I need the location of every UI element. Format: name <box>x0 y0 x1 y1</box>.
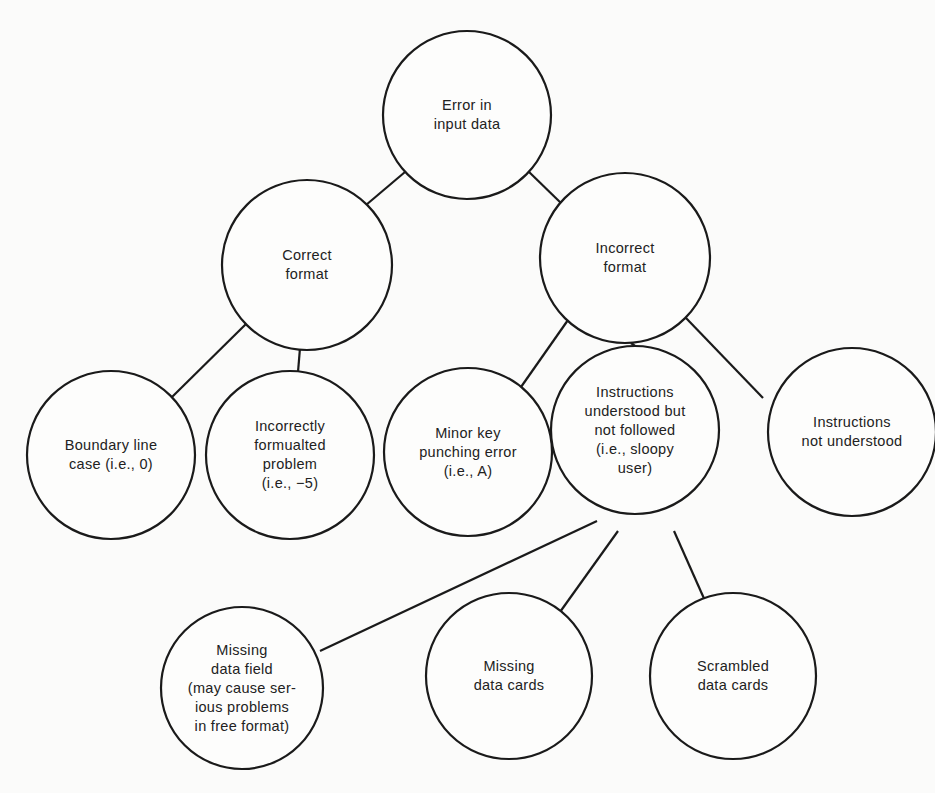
node-label-line: (i.e., sloopy <box>585 440 686 459</box>
node-label-line: (may cause ser- <box>188 679 296 698</box>
node-label-line: data cards <box>474 676 545 695</box>
node-label-line: Instructions <box>802 413 903 432</box>
node-label-line: Scrambled <box>697 657 769 676</box>
edge-n0-n2 <box>527 170 563 205</box>
node-label-line: format <box>282 265 332 284</box>
node-label-line: Missing <box>188 641 296 660</box>
node-label-n10: Scrambleddata cards <box>697 657 769 695</box>
node-label-line: not followed <box>585 421 686 440</box>
edge-n6-n9 <box>560 531 618 612</box>
node-label-n1: Correctformat <box>282 246 332 284</box>
node-label-line: Missing <box>474 657 545 676</box>
node-label-line: problem <box>254 455 326 474</box>
edge-n6-n10 <box>674 531 706 603</box>
node-label-n5: Minor keypunching error(i.e., A) <box>419 424 517 481</box>
node-label-line: (i.e., A) <box>419 462 517 481</box>
node-label-line: punching error <box>419 443 517 462</box>
node-label-line: Incorrect <box>595 239 654 258</box>
node-label-n2: Incorrectformat <box>595 239 654 277</box>
node-label-line: formualted <box>254 436 326 455</box>
node-label-line: Instructions <box>585 383 686 402</box>
node-label-line: input data <box>434 115 501 134</box>
node-label-n8: Missingdata field(may cause ser-ious pro… <box>188 641 296 736</box>
edge-n1-n3 <box>172 323 247 397</box>
node-label-n3: Boundary linecase (i.e., 0) <box>65 436 158 474</box>
node-label-line: ious problems <box>188 698 296 717</box>
node-label-line: Minor key <box>419 424 517 443</box>
node-label-line: data field <box>188 660 296 679</box>
node-label-line: Error in <box>434 96 501 115</box>
node-label-n0: Error ininput data <box>434 96 501 134</box>
node-label-line: case (i.e., 0) <box>65 455 158 474</box>
node-label-n7: Instructionsnot understood <box>802 413 903 451</box>
edge-n2-n5 <box>521 320 568 387</box>
node-label-line: (i.e., −5) <box>254 474 326 493</box>
node-label-line: format <box>595 258 654 277</box>
edge-n0-n1 <box>366 172 405 205</box>
node-label-line: in free format) <box>188 717 296 736</box>
node-label-n4: Incorrectlyformualtedproblem(i.e., −5) <box>254 417 326 493</box>
node-label-line: not understood <box>802 432 903 451</box>
node-label-line: Boundary line <box>65 436 158 455</box>
node-label-line: user) <box>585 459 686 478</box>
edge-n1-n4 <box>298 348 300 372</box>
node-label-n6: Instructionsunderstood butnot followed(i… <box>585 383 686 478</box>
node-label-line: Correct <box>282 246 332 265</box>
node-label-n9: Missingdata cards <box>474 657 545 695</box>
node-label-line: data cards <box>697 676 769 695</box>
node-label-line: Incorrectly <box>254 417 326 436</box>
node-label-line: understood but <box>585 402 686 421</box>
